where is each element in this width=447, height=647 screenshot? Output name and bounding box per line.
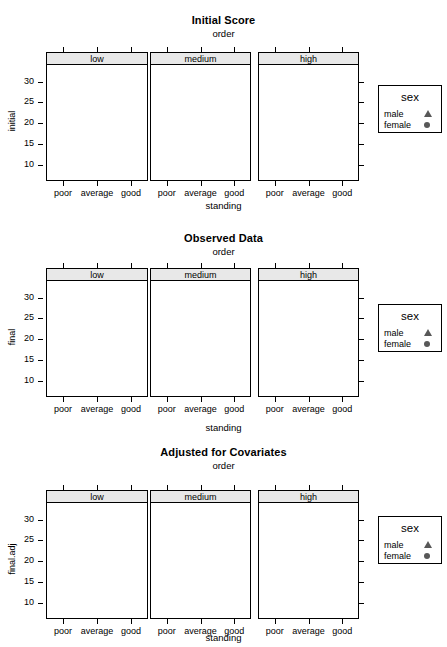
plot-panel-high xyxy=(258,64,359,181)
x-tick-mark xyxy=(167,619,168,624)
x-tick-mark xyxy=(97,485,98,490)
x-tick-mark xyxy=(97,263,98,268)
y-tick-label: 15 xyxy=(14,576,34,586)
chart-subtitle: order xyxy=(0,460,447,471)
panel-strip-label: high xyxy=(300,54,317,64)
x-tick-mark xyxy=(201,485,202,490)
panel-strip-label: medium xyxy=(184,492,216,502)
x-tick-mark xyxy=(309,619,310,624)
legend-box: sexmalefemale xyxy=(378,304,442,352)
x-tick-mark xyxy=(201,397,202,402)
x-tick-mark xyxy=(275,619,276,624)
y-tick-mark xyxy=(359,102,364,103)
y-tick-mark xyxy=(38,540,43,541)
x-tick-mark xyxy=(131,47,132,52)
legend-item-male[interactable]: male xyxy=(384,109,404,119)
panel-strip-label: medium xyxy=(184,270,216,280)
y-tick-label: 20 xyxy=(14,333,34,343)
y-tick-mark xyxy=(359,561,364,562)
plot-panel-high xyxy=(258,280,359,397)
y-tick-label: 30 xyxy=(14,514,34,524)
circle-icon xyxy=(424,341,430,347)
y-tick-mark xyxy=(359,82,364,83)
plot-panel-medium xyxy=(150,64,251,181)
x-tick-mark xyxy=(97,181,98,186)
plot-panel-medium xyxy=(150,280,251,397)
x-tick-mark xyxy=(201,47,202,52)
plot-panel-low xyxy=(46,502,148,619)
y-tick-mark xyxy=(359,603,364,604)
panel-strip-label: high xyxy=(300,270,317,280)
x-tick-label-good: good xyxy=(318,188,366,198)
triangle-up-icon xyxy=(424,541,432,548)
y-tick-label: 10 xyxy=(14,159,34,169)
chart-subtitle: order xyxy=(0,28,447,39)
x-tick-mark xyxy=(167,181,168,186)
x-tick-mark xyxy=(342,397,343,402)
x-tick-mark xyxy=(309,263,310,268)
y-tick-label: 30 xyxy=(14,76,34,86)
y-tick-label: 15 xyxy=(14,354,34,364)
x-tick-mark xyxy=(342,485,343,490)
y-tick-label: 25 xyxy=(14,96,34,106)
y-tick-mark xyxy=(359,582,364,583)
x-axis-label: standing xyxy=(0,200,447,211)
y-tick-mark xyxy=(359,318,364,319)
y-tick-mark xyxy=(38,603,43,604)
x-tick-mark xyxy=(63,181,64,186)
chart-title: Adjusted for Covariates xyxy=(0,446,447,458)
x-tick-mark xyxy=(201,181,202,186)
y-tick-mark xyxy=(38,360,43,361)
panel-strip-label: low xyxy=(90,270,104,280)
y-tick-label: 15 xyxy=(14,138,34,148)
panel-strip-label: high xyxy=(300,492,317,502)
y-tick-label: 20 xyxy=(14,555,34,565)
x-tick-mark xyxy=(63,47,64,52)
figure-adjusted-for-covariates: Adjusted for Covariatesorderfinal.adjsta… xyxy=(0,438,447,647)
x-tick-label-good: good xyxy=(318,626,366,636)
x-tick-mark xyxy=(309,181,310,186)
plot-panel-low xyxy=(46,64,148,181)
y-tick-mark xyxy=(38,144,43,145)
x-tick-mark xyxy=(275,397,276,402)
y-tick-mark xyxy=(359,540,364,541)
x-tick-mark xyxy=(275,485,276,490)
y-tick-label: 10 xyxy=(14,597,34,607)
x-tick-mark xyxy=(63,485,64,490)
x-tick-mark xyxy=(275,47,276,52)
x-tick-mark xyxy=(234,47,235,52)
x-tick-mark xyxy=(309,397,310,402)
chart-title: Initial Score xyxy=(0,14,447,26)
x-tick-mark xyxy=(342,619,343,624)
x-tick-mark xyxy=(97,397,98,402)
x-tick-mark xyxy=(167,263,168,268)
x-tick-mark xyxy=(167,397,168,402)
legend-item-male[interactable]: male xyxy=(384,540,404,550)
legend-item-female[interactable]: female xyxy=(384,120,411,130)
y-tick-label: 25 xyxy=(14,312,34,322)
x-tick-mark xyxy=(275,263,276,268)
legend-item-female[interactable]: female xyxy=(384,339,411,349)
y-tick-label: 10 xyxy=(14,375,34,385)
y-tick-label: 20 xyxy=(14,117,34,127)
y-tick-mark xyxy=(359,520,364,521)
legend-item-female[interactable]: female xyxy=(384,551,411,561)
legend-item-male[interactable]: male xyxy=(384,328,404,338)
x-tick-mark xyxy=(97,47,98,52)
x-tick-mark xyxy=(234,181,235,186)
x-tick-mark xyxy=(342,263,343,268)
panel-strip-label: medium xyxy=(184,54,216,64)
y-tick-mark xyxy=(38,339,43,340)
x-tick-mark xyxy=(63,619,64,624)
y-tick-mark xyxy=(359,339,364,340)
y-tick-label: 25 xyxy=(14,534,34,544)
x-tick-mark xyxy=(97,619,98,624)
x-tick-mark xyxy=(342,47,343,52)
y-tick-mark xyxy=(38,318,43,319)
x-tick-mark xyxy=(131,485,132,490)
x-tick-mark xyxy=(131,619,132,624)
triangle-up-icon xyxy=(424,110,432,117)
y-tick-mark xyxy=(359,123,364,124)
panel-strip-label: low xyxy=(90,54,104,64)
x-tick-mark xyxy=(342,181,343,186)
